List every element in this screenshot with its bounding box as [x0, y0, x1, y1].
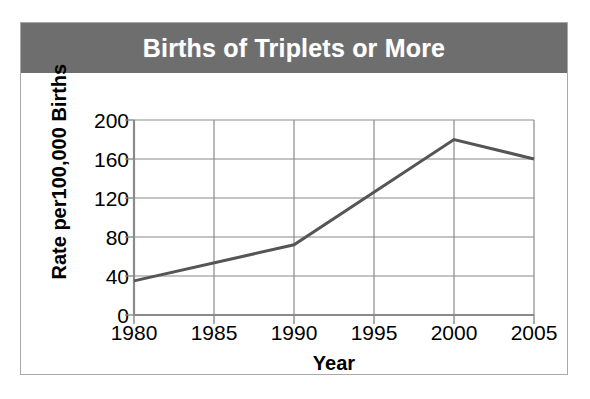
x-tick-label: 1995	[329, 322, 419, 343]
y-tick-label: 200	[57, 110, 129, 131]
y-tick-label: 160	[57, 149, 129, 170]
plot-area	[134, 120, 534, 315]
chart-body: Rate per100,000 Births 04080120160200 19…	[21, 73, 567, 374]
x-axis-tick-labels: 198019851990199520002005	[134, 322, 534, 352]
x-tick-label: 2005	[489, 322, 579, 343]
plot-svg	[134, 120, 534, 315]
y-tick-label: 120	[57, 188, 129, 209]
chart-title-band: Births of Triplets or More	[21, 23, 567, 73]
x-tick-label: 1980	[89, 322, 179, 343]
x-tick-label: 1985	[169, 322, 259, 343]
data-line-series	[134, 140, 534, 281]
y-tick-label: 40	[57, 266, 129, 287]
x-tick-label: 1990	[249, 322, 339, 343]
chart-page: Births of Triplets or More Rate per100,0…	[0, 0, 590, 399]
figure-frame: Births of Triplets or More Rate per100,0…	[20, 22, 568, 375]
data-line	[134, 140, 534, 281]
x-tick-label: 2000	[409, 322, 499, 343]
chart-title: Births of Triplets or More	[143, 34, 445, 63]
y-tick-label: 80	[57, 227, 129, 248]
x-axis-title: Year	[134, 352, 534, 375]
